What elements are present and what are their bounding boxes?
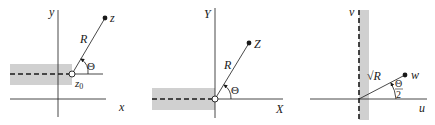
branch-cut-shade	[359, 10, 369, 120]
point-z-marker	[103, 16, 108, 21]
radius-label: R	[223, 58, 232, 72]
branch-point-label: z0	[74, 77, 83, 91]
Y-axis-label: Y	[204, 7, 212, 21]
radius-label: R	[79, 32, 88, 46]
point-z-label: z	[109, 11, 115, 25]
angle-denominator: 2	[396, 89, 401, 100]
angle-label: Θ	[231, 84, 239, 96]
angle-numerator: Θ	[395, 78, 402, 89]
panel-z-plane: y x z R Θ z0	[10, 5, 125, 117]
point-Z-label: Z	[254, 37, 261, 51]
origin-marker	[212, 96, 218, 102]
panel-w-plane: v u w √R Θ 2	[310, 5, 427, 120]
v-axis-label: v	[349, 5, 355, 19]
angle-arc-arrow	[224, 85, 231, 99]
panel-Z-plane: Y X Z R Θ	[152, 7, 284, 118]
y-axis-label: y	[48, 5, 55, 19]
X-axis-label: X	[275, 102, 284, 116]
x-axis-label: x	[118, 100, 125, 114]
branch-cut-diagram: y x z R Θ z0 Y X Z R Θ v u w √R Θ 2	[0, 0, 435, 125]
point-Z-marker	[247, 41, 252, 46]
angle-label: Θ	[87, 60, 95, 72]
point-w-label: w	[411, 68, 419, 82]
u-axis-label: u	[419, 101, 425, 115]
point-w-marker	[403, 73, 408, 78]
radius-label: √R	[367, 69, 382, 83]
